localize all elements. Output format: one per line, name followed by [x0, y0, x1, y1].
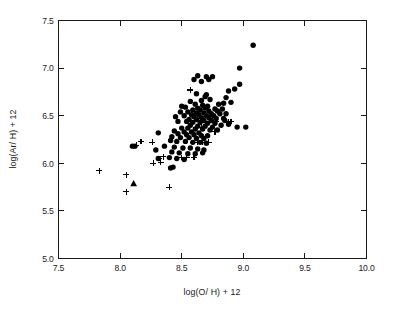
data-point-circle — [232, 86, 237, 91]
series-triangle — [130, 180, 137, 186]
x-axis-ticks — [120, 21, 305, 259]
y-tick-label: 6.0 — [42, 159, 54, 169]
y-axis-label: log(Ar/ H) + 12 — [8, 110, 18, 169]
data-point-plus — [166, 184, 172, 190]
series-plus — [96, 87, 234, 195]
data-point-circle — [172, 144, 177, 149]
data-point-circle — [185, 151, 190, 156]
x-tick-label: 7.5 — [53, 263, 65, 273]
y-tick-label: 5.0 — [42, 254, 54, 264]
data-point-circle — [223, 95, 228, 100]
data-point-plus — [187, 87, 193, 93]
data-point-circle — [234, 124, 239, 129]
scatter-plot-figure: 7.58.08.59.09.510.0 5.05.56.06.57.07.5 l… — [0, 0, 404, 311]
data-point-circle — [228, 100, 233, 105]
data-point-circle — [181, 113, 186, 118]
x-tick-label: 8.0 — [114, 263, 126, 273]
data-point-circle — [174, 139, 179, 144]
y-tick-label: 6.5 — [42, 111, 54, 121]
data-point-circle — [153, 147, 158, 152]
x-tick-label: 10.0 — [359, 263, 375, 273]
data-point-circle — [207, 127, 212, 132]
data-points — [96, 43, 256, 195]
data-point-triangle — [130, 180, 137, 186]
data-point-circle — [206, 77, 211, 82]
x-axis-label: log(O/ H) + 12 — [184, 287, 241, 297]
y-axis-tick-labels: 5.05.56.06.57.07.5 — [42, 16, 54, 264]
data-point-circle — [222, 118, 227, 123]
plot-canvas: 7.58.08.59.09.510.0 5.05.56.06.57.07.5 l… — [0, 0, 404, 311]
data-point-circle — [243, 124, 248, 129]
data-point-circle — [173, 114, 178, 119]
x-axis-tick-labels: 7.58.08.59.09.510.0 — [53, 263, 375, 273]
data-point-circle — [223, 111, 228, 116]
data-point-circle — [195, 146, 200, 151]
data-point-circle — [169, 149, 174, 154]
data-point-circle — [190, 140, 195, 145]
y-tick-label: 7.0 — [42, 63, 54, 73]
data-point-circle — [175, 119, 180, 124]
data-point-circle — [130, 143, 135, 148]
data-point-circle — [191, 77, 196, 82]
data-point-plus — [150, 160, 156, 166]
data-point-circle — [167, 155, 172, 160]
data-point-circle — [168, 165, 173, 170]
data-point-circle — [250, 43, 255, 48]
data-point-circle — [200, 150, 205, 155]
data-point-plus — [96, 168, 102, 174]
data-point-circle — [218, 123, 223, 128]
data-point-circle — [174, 156, 179, 161]
y-tick-label: 5.5 — [42, 206, 54, 216]
data-point-circle — [162, 143, 167, 148]
data-point-plus — [138, 139, 144, 145]
data-point-circle — [183, 104, 188, 109]
data-point-circle — [188, 145, 193, 150]
data-point-circle — [207, 97, 212, 102]
data-point-circle — [226, 88, 231, 93]
data-point-plus — [123, 172, 129, 178]
y-tick-label: 7.5 — [42, 16, 54, 26]
data-point-circle — [199, 98, 204, 103]
y-axis-ticks — [59, 68, 367, 211]
data-point-circle — [188, 99, 193, 104]
data-point-circle — [221, 101, 226, 106]
data-point-circle — [217, 111, 222, 116]
data-point-circle — [237, 82, 242, 87]
x-tick-label: 9.0 — [238, 263, 250, 273]
data-point-circle — [156, 130, 161, 135]
data-point-circle — [168, 138, 173, 143]
data-point-circle — [183, 139, 188, 144]
data-point-circle — [216, 102, 221, 107]
data-point-plus — [123, 189, 129, 195]
data-point-circle — [194, 91, 199, 96]
data-point-plus — [149, 139, 155, 145]
data-point-circle — [193, 151, 198, 156]
data-point-circle — [237, 65, 242, 70]
plot-frame — [59, 21, 367, 259]
x-tick-label: 8.5 — [176, 263, 188, 273]
series-filled-circle — [130, 43, 256, 171]
x-tick-label: 9.5 — [299, 263, 311, 273]
data-point-circle — [199, 79, 204, 84]
data-point-circle — [180, 145, 185, 150]
data-point-circle — [220, 106, 225, 111]
